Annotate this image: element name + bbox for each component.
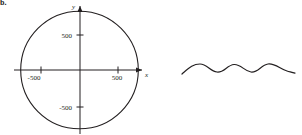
wave-plot-svg	[160, 0, 302, 135]
circle-plot-svg: -500 500 500 -500 x y	[0, 0, 160, 135]
wave-curve	[182, 64, 295, 74]
figure-container: b. -500 500 500 -500 x y	[0, 0, 302, 135]
x-axis-label: x	[144, 71, 149, 79]
circle-plot-panel: -500 500 500 -500 x y	[0, 0, 160, 135]
y-axis-label: y	[71, 3, 76, 11]
y-tick-label-positive-500: 500	[62, 32, 73, 40]
y-tick-label-negative-500: -500	[59, 104, 72, 112]
x-tick-label-negative-500: -500	[28, 74, 41, 82]
wave-plot-panel	[160, 0, 302, 135]
x-tick-label-positive-500: 500	[112, 74, 123, 82]
x-axis-arrow-icon	[136, 67, 142, 72]
